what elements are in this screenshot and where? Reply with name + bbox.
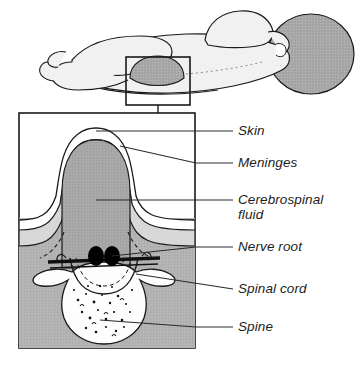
label-spine: Spine <box>238 319 273 334</box>
nerve-root <box>88 246 104 266</box>
label-skin: Skin <box>238 123 265 138</box>
figure-canvas <box>0 0 364 365</box>
label-meninges: Meninges <box>238 155 297 170</box>
label-spinal-cord: Spinal cord <box>238 281 307 296</box>
label-nerve-root: Nerve root <box>238 239 302 254</box>
label-cerebrospinal-fluid: Cerebrospinal fluid <box>238 192 323 222</box>
infant-overview <box>40 11 354 94</box>
spina-bifida-figure: Skin Meninges Cerebrospinal fluid Nerve … <box>0 0 364 365</box>
infant-arm <box>205 11 273 48</box>
infant-ear <box>276 43 286 56</box>
detail-cross-section <box>19 113 195 348</box>
